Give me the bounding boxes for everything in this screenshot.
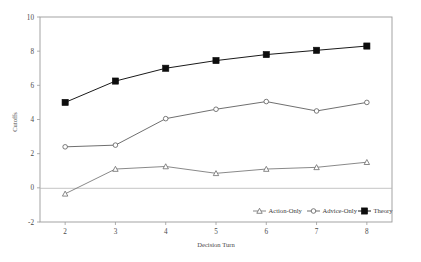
- data-point-marker: [364, 43, 370, 49]
- series-line: [65, 162, 367, 194]
- x-tick-label: 5: [214, 228, 218, 236]
- chart-container: -20246810 2345678 Cutoffs Decision Turn …: [0, 0, 421, 262]
- data-point-marker: [62, 191, 67, 196]
- x-axis-title: Decision Turn: [197, 241, 235, 248]
- x-axis-tick-labels: 2345678: [63, 228, 369, 236]
- data-point-marker: [361, 208, 367, 214]
- legend-label: Advice-Only: [323, 207, 358, 214]
- data-point-marker: [63, 145, 68, 150]
- y-tick-label: 2: [30, 150, 34, 158]
- y-axis-tick-labels: -20246810: [27, 14, 35, 227]
- x-tick-label: 6: [264, 228, 268, 236]
- plot-frame: [40, 17, 392, 222]
- series-advice-only: [63, 99, 369, 149]
- data-point-marker: [214, 107, 219, 112]
- x-tick-label: 4: [164, 228, 168, 236]
- y-tick-label: 0: [30, 184, 34, 192]
- legend-item-action-only[interactable]: Action-Only: [253, 207, 303, 214]
- legend-item-theory[interactable]: Theory: [358, 207, 393, 214]
- y-tick-label: 4: [30, 116, 34, 124]
- data-point-marker: [311, 209, 316, 214]
- data-point-marker: [314, 109, 319, 114]
- legend-label: Action-Only: [269, 207, 303, 214]
- data-point-marker: [163, 116, 168, 121]
- x-tick-label: 2: [63, 228, 67, 236]
- series-theory: [62, 43, 370, 106]
- x-tick-label: 8: [365, 228, 369, 236]
- y-tick-label: 6: [30, 82, 34, 90]
- y-axis-title: Cutoffs: [11, 112, 18, 132]
- data-point-marker: [365, 100, 370, 105]
- data-point-marker: [263, 51, 269, 57]
- chart-legend: Action-OnlyAdvice-OnlyTheory: [253, 207, 393, 214]
- y-tick-label: 10: [27, 14, 35, 22]
- x-tick-label: 3: [114, 228, 118, 236]
- plot-area-border: [40, 17, 392, 222]
- data-point-marker: [213, 57, 219, 63]
- y-tick-label: -2: [28, 219, 34, 227]
- data-point-marker: [313, 47, 319, 53]
- data-point-marker: [163, 65, 169, 71]
- series-action-only: [62, 160, 369, 197]
- series-group: [62, 43, 370, 196]
- data-point-marker: [264, 99, 269, 104]
- x-tick-label: 7: [315, 228, 319, 236]
- y-tick-label: 8: [30, 48, 34, 56]
- legend-item-advice-only[interactable]: Advice-Only: [307, 207, 358, 214]
- data-point-marker: [112, 78, 118, 84]
- data-point-marker: [113, 143, 118, 148]
- line-chart: -20246810 2345678 Cutoffs Decision Turn …: [0, 0, 421, 262]
- data-point-marker: [62, 99, 68, 105]
- legend-label: Theory: [374, 207, 394, 214]
- series-line: [65, 46, 367, 102]
